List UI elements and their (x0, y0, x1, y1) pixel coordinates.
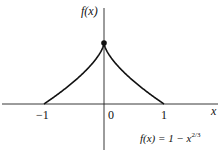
tick-label-0: 0 (108, 109, 114, 121)
x-axis-label: x (211, 105, 216, 117)
tick-label-1: 1 (161, 109, 167, 121)
function-formula: f(x) = 1 − x2/3 (140, 129, 200, 144)
tick-label-neg1: −1 (36, 109, 49, 121)
peak-point (101, 40, 107, 46)
formula-exponent: 2/3 (192, 131, 201, 139)
y-axis-label: f(x) (81, 5, 98, 17)
plot-area (0, 0, 220, 150)
formula-base: f(x) = 1 − x (140, 132, 192, 144)
